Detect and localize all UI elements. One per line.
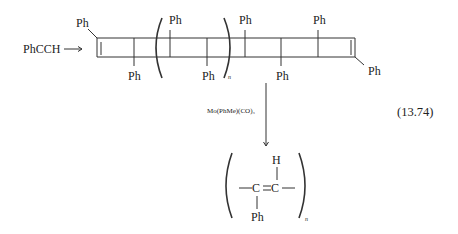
reaction-scheme: PhCCH n Ph Ph Ph Ph Ph Ph Ph Ph Mo(PhMe)… xyxy=(0,0,458,234)
right-bracket xyxy=(224,18,230,78)
ph-bracket-bottom: Ph xyxy=(202,69,215,83)
product-left-bracket xyxy=(226,153,232,218)
product-bonds xyxy=(239,167,295,209)
ladder-polymer xyxy=(88,29,364,66)
ph-top-2: Ph xyxy=(239,13,252,27)
reactant-label: PhCCH xyxy=(23,42,61,56)
reaction-arrow-down xyxy=(264,83,269,146)
left-bracket xyxy=(156,18,162,78)
repeat-subscript: n xyxy=(228,74,231,80)
catalyst-label: Mo(PhMe)(CO)₃ xyxy=(207,107,255,115)
ph-top-left: Ph xyxy=(76,16,89,30)
ph-bracket-top: Ph xyxy=(169,13,182,27)
ph-top-3: Ph xyxy=(313,13,326,27)
equation-number: (13.74) xyxy=(397,105,433,119)
product-phenyl: Ph xyxy=(251,210,264,224)
reaction-arrow-right xyxy=(64,47,82,52)
ph-bottom-1: Ph xyxy=(128,69,141,83)
product-right-bracket xyxy=(299,153,305,218)
ph-bottom-2: Ph xyxy=(276,69,289,83)
product-carbon-left: C xyxy=(252,181,260,195)
product-hydrogen: H xyxy=(272,153,281,167)
product-subscript: n xyxy=(305,216,308,222)
product-carbon-right: C xyxy=(271,181,279,195)
ph-right-end: Ph xyxy=(368,64,381,78)
